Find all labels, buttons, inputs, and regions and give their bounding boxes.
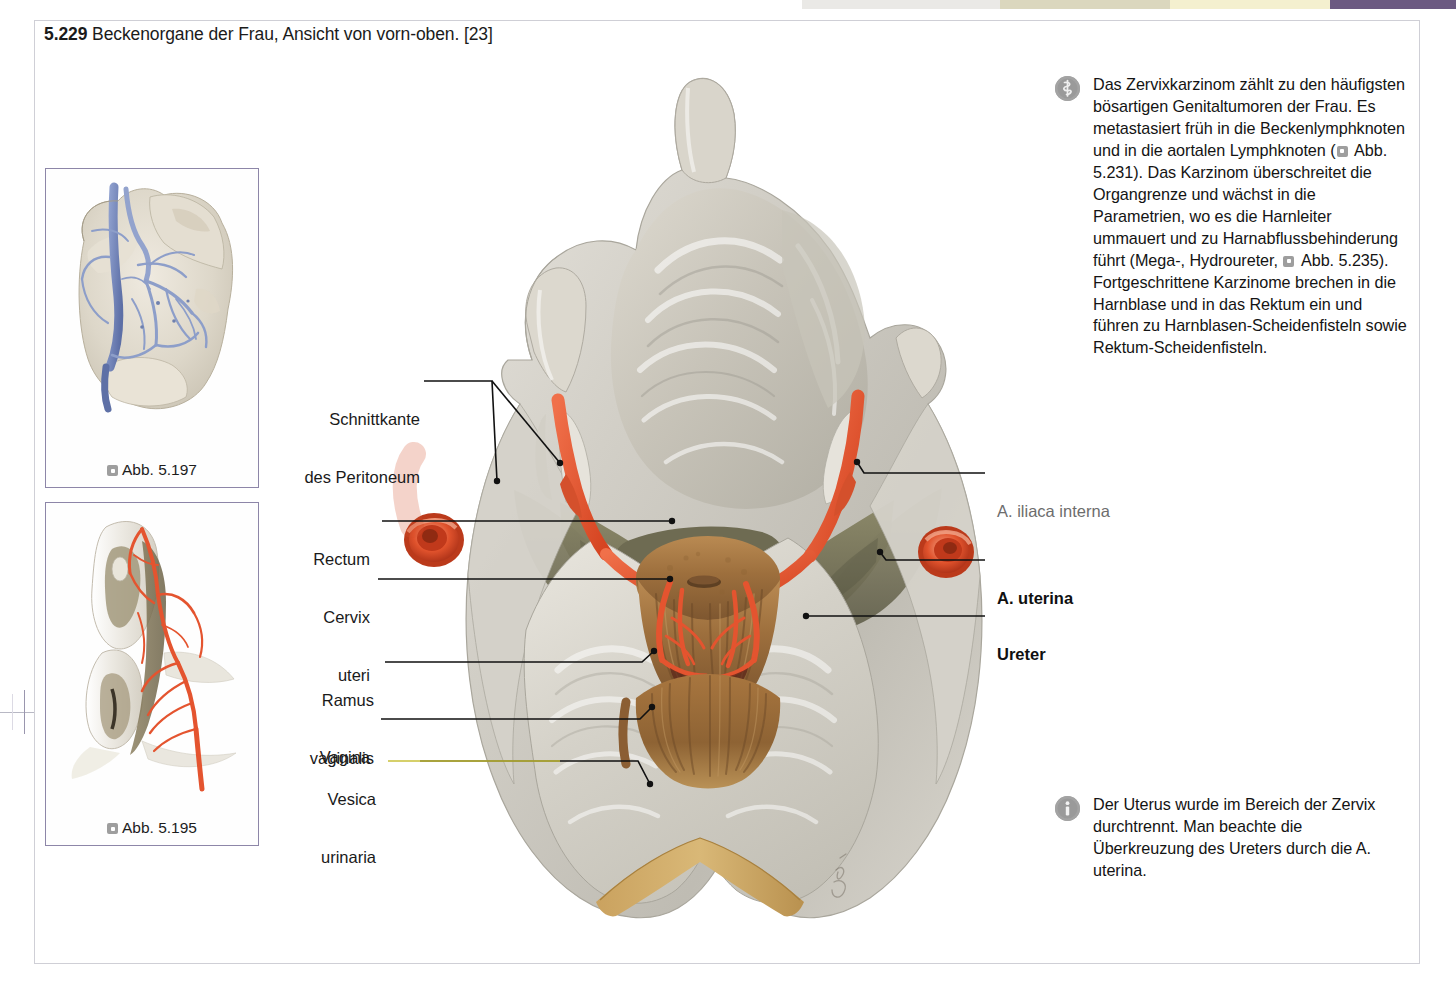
info-circle-icon [1055,796,1080,821]
top-color-bar-gray [802,0,1000,9]
label-line-1: Vesica [246,790,376,809]
thumbnail-artwork-vulva-arteries [46,503,258,805]
clinical-note-part-2: Abb. 5.231). Das Karzinom überschreitet … [1093,141,1398,269]
label-line-2: des Peritoneum [246,468,420,487]
label-line-2: urinaria [246,848,376,867]
crop-mark-horizontal [0,712,34,713]
thumbnail-caption-abb-5-197: Abb. 5.197 [46,461,258,479]
reference-square-icon [107,823,118,834]
thumbnail-artwork-venous-pelvis [46,169,258,447]
main-anatomical-illustration [330,70,1030,940]
reference-square-icon [107,465,118,476]
figure-title: Beckenorgane der Frau, Ansicht von vorn-… [92,24,459,44]
figure-heading: 5.229 Beckenorgane der Frau, Ansicht von… [44,24,493,45]
top-color-bar-olive [1000,0,1170,9]
thumbnail-abb-5-197[interactable]: Abb. 5.197 [45,168,259,488]
figure-source-citation: [23] [464,24,493,44]
label-vesica-urinaria: Vesica urinaria [246,751,376,907]
clinical-note-text: Das Zervixkarzinom zählt zu den häufigst… [1093,74,1407,359]
label-line-1: A. iliaca interna [997,502,1110,521]
thumbnail-caption-abb-5-195: Abb. 5.195 [46,819,258,837]
reference-square-icon [1283,256,1294,267]
thumbnail-abb-5-195[interactable]: Abb. 5.195 [45,502,259,846]
figure-number: 5.229 [44,24,87,44]
thumbnail-caption-text: Abb. 5.197 [122,461,197,478]
label-line-1: Ramus [246,691,374,710]
info-note-block: Der Uterus wurde im Bereich der Zervix d… [1055,794,1407,882]
label-a-iliaca-interna: A. iliaca interna [997,463,1110,560]
top-color-bar-cream [1170,0,1330,9]
asclepius-rod-icon [1055,76,1080,101]
label-line-1: Rectum [246,550,370,569]
label-line-1: Schnittkante [246,410,420,429]
label-line-1: Cervix [246,608,370,627]
thumbnail-caption-text: Abb. 5.195 [122,819,197,836]
label-ureter: Ureter [997,606,1046,703]
reference-square-icon [1337,146,1348,157]
info-note-text: Der Uterus wurde im Bereich der Zervix d… [1093,794,1407,882]
crop-mark-vertical-secondary [12,694,13,730]
label-schnittkante-des-peritoneum: Schnittkante des Peritoneum [246,371,420,527]
top-color-bar-purple [1330,0,1456,9]
label-line-1: Ureter [997,645,1046,664]
clinical-note-block: Das Zervixkarzinom zählt zu den häufigst… [1055,74,1407,359]
crop-mark-vertical [24,690,25,734]
